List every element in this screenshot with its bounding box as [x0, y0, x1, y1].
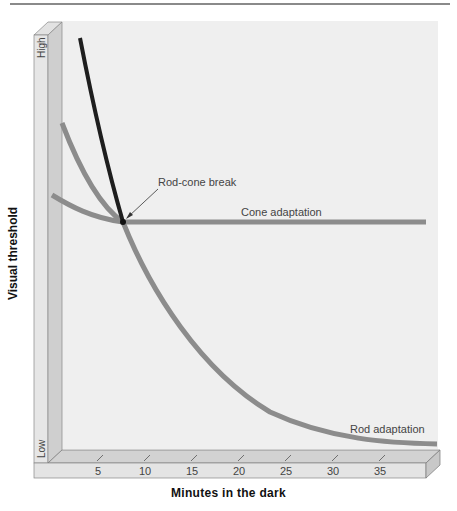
- y-low-label: Low: [36, 439, 47, 458]
- x-axis-label: Minutes in the dark: [0, 486, 457, 500]
- rod-cone-break-point: [120, 219, 126, 225]
- cone-adaptation-label: Cone adaptation: [241, 206, 322, 218]
- y-axis-pillar: [34, 22, 62, 463]
- tick-label: 20: [233, 465, 245, 477]
- rod-cone-break-label: Rod-cone break: [158, 176, 237, 188]
- plot-area: [62, 21, 438, 449]
- tick-label: 25: [280, 465, 292, 477]
- y-high-label: High: [36, 37, 47, 58]
- y-axis-label: Visual threshold: [6, 207, 20, 300]
- tick-label: 15: [186, 465, 198, 477]
- dark-adaptation-chart: 5 10 15 20 25 30 35 High Low Rod-cone br…: [0, 0, 457, 511]
- tick-label: 30: [327, 465, 339, 477]
- tick-label: 35: [374, 465, 386, 477]
- tick-label: 5: [95, 465, 101, 477]
- tick-label: 10: [139, 465, 151, 477]
- rod-adaptation-label: Rod adaptation: [350, 423, 425, 435]
